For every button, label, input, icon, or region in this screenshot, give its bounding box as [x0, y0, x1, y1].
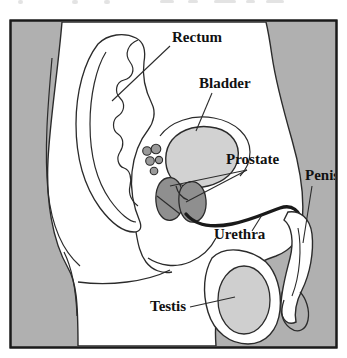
testis: [218, 266, 270, 334]
label-rectum: Rectum: [172, 29, 222, 45]
label-testis: Testis: [150, 298, 186, 314]
prostate-right-lobe: [179, 182, 206, 222]
label-urethra: Urethra: [214, 226, 266, 242]
label-bladder: Bladder: [199, 75, 251, 91]
anatomy-diagram-svg: Rectum Bladder Prostate Penis Urethra Te…: [0, 0, 347, 358]
anatomy-figure: Rectum Bladder Prostate Penis Urethra Te…: [0, 0, 347, 358]
seminal-vesicle-circle: [150, 167, 158, 175]
seminal-vesicle-circle: [151, 144, 161, 154]
label-penis: Penis: [305, 167, 339, 183]
label-prostate: Prostate: [226, 151, 279, 167]
seminal-vesicle-circle: [143, 147, 152, 156]
seminal-vesicle-circle: [146, 157, 155, 166]
figure-canvas: Rectum Bladder Prostate Penis Urethra Te…: [12, 22, 339, 346]
seminal-vesicle-circle: [155, 156, 162, 163]
